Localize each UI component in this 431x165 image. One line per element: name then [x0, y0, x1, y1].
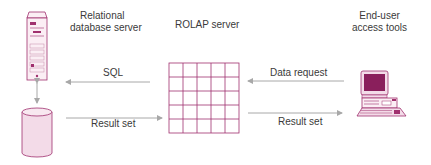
- rolap-server-grid: [169, 63, 239, 133]
- database-cylinder-icon: [22, 108, 52, 157]
- computer-icon: [357, 71, 406, 116]
- diagram-canvas: [0, 0, 431, 165]
- db-server-icon: [27, 12, 47, 80]
